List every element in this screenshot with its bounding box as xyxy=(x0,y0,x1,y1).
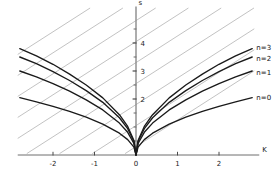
x-tick-label-2: 0 xyxy=(134,160,138,168)
plot-canvas: -2-1012234 n=3n=2n=1n=0 s K xyxy=(0,0,278,181)
series-annotations: n=3n=2n=1n=0 xyxy=(256,44,271,102)
x-tick-label-0: -2 xyxy=(50,160,57,168)
x-tick-label-3: 1 xyxy=(175,160,179,168)
y-tick-label-0: 2 xyxy=(141,96,145,104)
background-line-0 xyxy=(18,8,123,75)
series-annotation-n-1: n=1 xyxy=(256,69,271,77)
background-line-5 xyxy=(60,29,255,154)
background-line-6 xyxy=(92,50,254,154)
series-annotation-n-2: n=2 xyxy=(256,55,271,63)
series-annotation-n-3: n=3 xyxy=(256,44,271,52)
series-annotation-n-0: n=0 xyxy=(256,94,271,102)
x-tick-label-1: -1 xyxy=(91,160,98,168)
y-axis-label: s xyxy=(139,0,143,7)
x-axis-label: K xyxy=(262,146,267,154)
axes-group xyxy=(18,7,260,155)
background-line-1 xyxy=(18,8,156,96)
x-tick-label-4: 2 xyxy=(217,160,221,168)
background-line-8 xyxy=(18,8,90,54)
y-tick-label-1: 3 xyxy=(141,68,145,76)
background-line-2 xyxy=(18,8,189,117)
background-line-4 xyxy=(27,8,254,154)
chart-figure: -2-1012234 n=3n=2n=1n=0 s K xyxy=(0,0,278,181)
y-tick-label-2: 4 xyxy=(141,40,146,48)
